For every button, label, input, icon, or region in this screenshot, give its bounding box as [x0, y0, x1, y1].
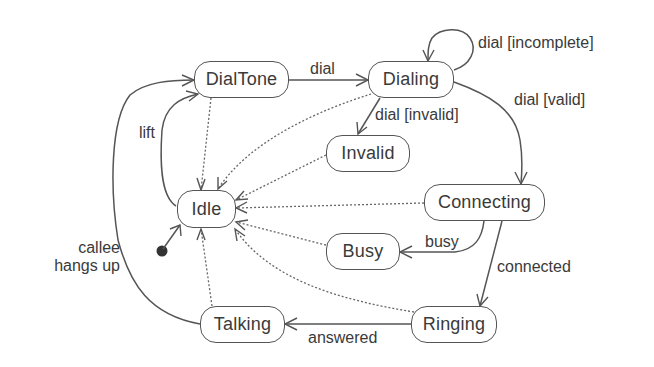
- state-label: Ringing: [423, 314, 485, 335]
- state-idle: Idle: [177, 190, 236, 228]
- transition-busy-to-idle: [236, 222, 326, 245]
- transition-connecting-to-idle: [236, 203, 424, 208]
- transition-arrows: [0, 0, 654, 367]
- state-ringing: Ringing: [411, 306, 497, 343]
- arrowhead-icon: [197, 229, 205, 240]
- state-label: DialTone: [206, 69, 278, 90]
- arrowhead-icon: [197, 178, 205, 190]
- label-answered: answered: [308, 330, 377, 346]
- state-talking: Talking: [200, 306, 285, 343]
- label-dial-incomplete: dial [incomplete]: [478, 35, 594, 51]
- state-label: Dialing: [383, 69, 439, 90]
- state-label: Connecting: [438, 192, 531, 213]
- state-label: Idle: [192, 199, 222, 220]
- label-lift: lift: [139, 125, 155, 141]
- transition-dialtone-to-idle: [201, 98, 211, 190]
- state-connecting: Connecting: [424, 184, 545, 221]
- arrowhead-icon: [218, 177, 227, 189]
- state-invalid: Invalid: [326, 135, 410, 172]
- label-dial: dial: [310, 61, 335, 77]
- state-dialing: Dialing: [368, 61, 454, 98]
- label-dial-valid: dial [valid]: [514, 92, 585, 108]
- state-diagram: DialTone Dialing Invalid Idle Connecting…: [0, 0, 654, 367]
- arrowhead-icon: [236, 220, 248, 230]
- state-label: Invalid: [341, 143, 394, 164]
- label-busy: busy: [425, 234, 459, 250]
- transition-talking-to-idle: [201, 229, 212, 306]
- arrowhead-icon: [236, 202, 247, 213]
- state-label: Talking: [214, 314, 271, 335]
- label-dial-invalid: dial [invalid]: [375, 107, 459, 123]
- transition-dial-valid: [454, 82, 522, 184]
- state-busy: Busy: [326, 233, 400, 270]
- transition-invalid-to-idle: [236, 155, 326, 200]
- label-callee-hangs-up: callee hangs up: [36, 239, 120, 275]
- label-connected: connected: [497, 259, 571, 275]
- initial-state-dot: [157, 246, 168, 257]
- state-dialtone: DialTone: [194, 61, 289, 98]
- state-label: Busy: [343, 241, 384, 262]
